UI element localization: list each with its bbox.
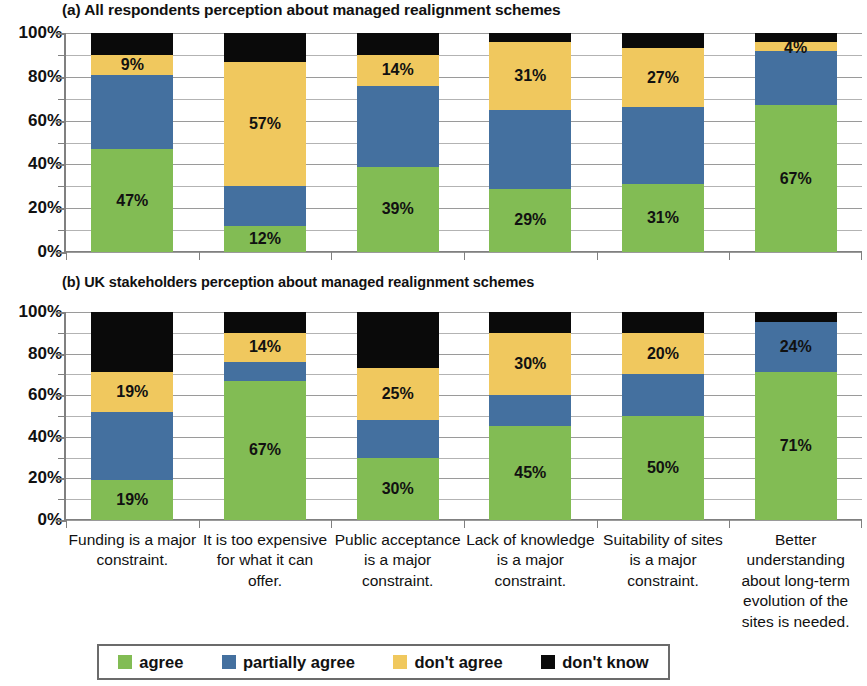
y-tick-mark-20 bbox=[56, 478, 66, 480]
bar-segment-a-4-don-t-agree[interactable]: 27% bbox=[622, 48, 704, 107]
bar-segment-value-label: 19% bbox=[116, 384, 148, 400]
legend-item-partially_agree[interactable]: partially agree bbox=[222, 653, 355, 672]
bar-a-4[interactable]: 31%27% bbox=[622, 33, 704, 252]
bar-segment-a-0-don-t-know[interactable] bbox=[91, 33, 173, 55]
legend-label-agree: agree bbox=[139, 653, 183, 672]
bar-segment-b-4-agree[interactable]: 50% bbox=[622, 416, 704, 520]
legend-item-agree[interactable]: agree bbox=[118, 653, 183, 672]
bar-a-5[interactable]: 67%4% bbox=[755, 33, 837, 252]
bar-segment-b-5-don-t-know[interactable] bbox=[755, 312, 837, 322]
bar-segment-b-2-don-t-know[interactable] bbox=[357, 312, 439, 368]
legend-swatch-dont_know-icon bbox=[541, 655, 555, 669]
bar-segment-value-label: 47% bbox=[116, 193, 148, 209]
bar-segment-a-5-partially-agree[interactable] bbox=[755, 51, 837, 106]
bar-segment-b-2-agree[interactable]: 30% bbox=[357, 458, 439, 520]
bar-segment-a-2-don-t-know[interactable] bbox=[357, 33, 439, 55]
bar-segment-b-2-partially-agree[interactable] bbox=[357, 420, 439, 457]
bar-segment-b-0-agree[interactable]: 19% bbox=[91, 480, 173, 520]
bar-b-4[interactable]: 50%20% bbox=[622, 312, 704, 520]
bar-segment-b-3-agree[interactable]: 45% bbox=[489, 426, 571, 520]
y-axis-tick-label-0: 0% bbox=[4, 510, 62, 530]
bar-segment-value-label: 45% bbox=[514, 465, 546, 481]
bar-segment-b-4-partially-agree[interactable] bbox=[622, 374, 704, 416]
bar-segment-value-label: 9% bbox=[121, 57, 144, 73]
bar-segment-value-label: 67% bbox=[780, 171, 812, 187]
bar-segment-b-0-partially-agree[interactable] bbox=[91, 412, 173, 481]
bar-segment-b-3-don-t-agree[interactable]: 30% bbox=[489, 333, 571, 395]
bar-segment-a-1-agree[interactable]: 12% bbox=[224, 226, 306, 252]
y-tick-mark-20 bbox=[56, 208, 66, 210]
y-tick-mark-30 bbox=[58, 458, 66, 459]
bar-segment-a-3-partially-agree[interactable] bbox=[489, 110, 571, 189]
y-tick-mark-90 bbox=[58, 333, 66, 334]
bar-segment-a-5-don-t-know[interactable] bbox=[755, 33, 837, 42]
bar-segment-a-2-don-t-agree[interactable]: 14% bbox=[357, 55, 439, 86]
bar-segment-b-1-partially-agree[interactable] bbox=[224, 362, 306, 381]
bar-segment-b-5-agree[interactable]: 71% bbox=[755, 372, 837, 520]
bar-b-1[interactable]: 67%14% bbox=[224, 312, 306, 520]
bar-a-0[interactable]: 47%9% bbox=[91, 33, 173, 252]
legend-item-dont_agree[interactable]: don't agree bbox=[393, 653, 502, 672]
bar-segment-b-0-don-t-know[interactable] bbox=[91, 312, 173, 372]
bar-segment-a-2-partially-agree[interactable] bbox=[357, 86, 439, 167]
bar-segment-a-2-agree[interactable]: 39% bbox=[357, 167, 439, 252]
x-axis-category-label-4: Suitability of sites is a major constrai… bbox=[597, 530, 730, 591]
bar-a-1[interactable]: 12%57% bbox=[224, 33, 306, 252]
bar-segment-b-4-don-t-agree[interactable]: 20% bbox=[622, 333, 704, 375]
y-axis-tick-label-40: 40% bbox=[4, 154, 62, 174]
bar-segment-a-3-agree[interactable]: 29% bbox=[489, 189, 571, 253]
bar-segment-value-label: 50% bbox=[647, 460, 679, 476]
bar-segment-a-4-partially-agree[interactable] bbox=[622, 107, 704, 184]
bar-segment-value-label: 39% bbox=[382, 201, 414, 217]
x-tick-mark-1 bbox=[199, 520, 200, 528]
bar-segment-value-label: 31% bbox=[647, 210, 679, 226]
x-tick-mark-3 bbox=[464, 520, 465, 528]
bar-segment-a-4-agree[interactable]: 31% bbox=[622, 184, 704, 252]
legend-item-dont_know[interactable]: don't know bbox=[541, 653, 648, 672]
bar-segment-a-0-partially-agree[interactable] bbox=[91, 75, 173, 149]
bar-segment-a-0-agree[interactable]: 47% bbox=[91, 149, 173, 252]
x-tick-mark-0 bbox=[66, 520, 67, 528]
bar-segment-b-1-don-t-know[interactable] bbox=[224, 312, 306, 333]
gridline-30 bbox=[66, 458, 862, 459]
bar-segment-a-0-don-t-agree[interactable]: 9% bbox=[91, 55, 173, 75]
bar-segment-a-5-agree[interactable]: 67% bbox=[755, 105, 837, 252]
bar-segment-a-4-don-t-know[interactable] bbox=[622, 33, 704, 48]
x-tick-mark-1 bbox=[199, 252, 200, 260]
bar-segment-b-5-partially-agree[interactable]: 24% bbox=[755, 322, 837, 372]
x-tick-mark-2 bbox=[331, 520, 332, 528]
bar-segment-a-1-partially-agree[interactable] bbox=[224, 186, 306, 225]
gridline-100 bbox=[66, 33, 862, 34]
bar-segment-b-1-agree[interactable]: 67% bbox=[224, 381, 306, 520]
bar-segment-a-3-don-t-know[interactable] bbox=[489, 33, 571, 42]
bar-a-3[interactable]: 29%31% bbox=[489, 33, 571, 252]
bar-segment-b-4-don-t-know[interactable] bbox=[622, 312, 704, 333]
y-axis-tick-label-80: 80% bbox=[4, 67, 62, 87]
bar-b-3[interactable]: 45%30% bbox=[489, 312, 571, 520]
legend-label-dont_know: don't know bbox=[562, 653, 648, 672]
y-axis-tick-label-0: 0% bbox=[4, 242, 62, 262]
chart-a-title: (a) All respondents perception about man… bbox=[62, 1, 561, 19]
y-tick-mark-70 bbox=[58, 374, 66, 375]
bar-segment-value-label: 31% bbox=[514, 68, 546, 84]
bar-segment-b-3-partially-agree[interactable] bbox=[489, 395, 571, 426]
bar-segment-a-1-don-t-know[interactable] bbox=[224, 33, 306, 61]
bar-segment-value-label: 57% bbox=[249, 116, 281, 132]
gridline-80 bbox=[66, 77, 862, 78]
bar-segment-value-label: 24% bbox=[780, 339, 812, 355]
y-tick-mark-80 bbox=[56, 77, 66, 79]
y-tick-mark-60 bbox=[56, 121, 66, 123]
bar-segment-a-5-don-t-agree[interactable]: 4% bbox=[755, 42, 837, 51]
bar-segment-b-2-don-t-agree[interactable]: 25% bbox=[357, 368, 439, 420]
y-tick-mark-50 bbox=[58, 416, 66, 417]
bar-b-2[interactable]: 30%25% bbox=[357, 312, 439, 520]
y-tick-mark-10 bbox=[58, 230, 66, 231]
bar-segment-b-1-don-t-agree[interactable]: 14% bbox=[224, 333, 306, 362]
bar-segment-a-1-don-t-agree[interactable]: 57% bbox=[224, 62, 306, 187]
bar-segment-b-0-don-t-agree[interactable]: 19% bbox=[91, 372, 173, 412]
bar-segment-a-3-don-t-agree[interactable]: 31% bbox=[489, 42, 571, 110]
bar-a-2[interactable]: 39%14% bbox=[357, 33, 439, 252]
bar-b-0[interactable]: 19%19% bbox=[91, 312, 173, 520]
bar-segment-b-3-don-t-know[interactable] bbox=[489, 312, 571, 333]
bar-b-5[interactable]: 71%24% bbox=[755, 312, 837, 520]
